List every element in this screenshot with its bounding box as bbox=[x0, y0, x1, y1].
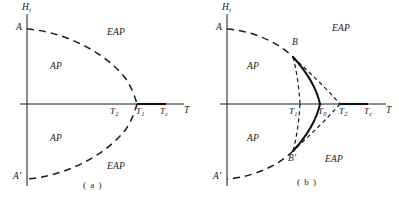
panel-a-region-eap-upper: EAP bbox=[107, 28, 125, 38]
panel-a-region-ap-upper: AP bbox=[50, 62, 62, 72]
panel-a: Hi A A' AP EAP AP EAP T2 T1 Tc T ( a ) bbox=[0, 0, 199, 204]
panel-b-first-order-curve-upper bbox=[293, 57, 320, 104]
panel-b-tick-Tc: Tc bbox=[364, 107, 372, 116]
panel-b-region-eap-lower: EAP bbox=[325, 155, 343, 165]
panel-b-region-ap-upper: AP bbox=[247, 62, 259, 72]
panel-a-region-ap-lower: AP bbox=[50, 134, 62, 144]
panel-a-label-A-prime: A' bbox=[13, 172, 21, 182]
panel-b-tick-T1: T1 bbox=[289, 107, 298, 116]
panel-b-x-axis-label: T bbox=[386, 106, 391, 116]
panel-a-upper-boundary bbox=[27, 29, 137, 104]
panel-a-tick-T2: T2 bbox=[110, 107, 119, 116]
panel-b-label-B: B bbox=[292, 38, 298, 48]
panel-b-label-B-prime: B' bbox=[288, 154, 296, 164]
panel-b-outer-upper-boundary bbox=[227, 29, 293, 57]
panel-b-plot bbox=[200, 0, 399, 204]
panel-a-region-eap-lower: EAP bbox=[107, 162, 125, 172]
panel-b: Hi A A' B B' AP EAP AP EAP T1 T0 T2 Tc T… bbox=[200, 0, 399, 204]
panel-b-outer-lower-boundary bbox=[227, 151, 293, 179]
panel-a-tick-Tc: Tc bbox=[160, 107, 168, 116]
panel-a-tick-T1: T1 bbox=[136, 107, 145, 116]
panel-a-caption: ( a ) bbox=[83, 180, 103, 190]
panel-b-region-ap-lower: AP bbox=[247, 134, 259, 144]
panel-b-caption: ( b ) bbox=[297, 177, 317, 187]
panel-b-region-eap-upper: EAP bbox=[332, 24, 350, 34]
panel-a-x-axis-label: T bbox=[184, 106, 189, 116]
panel-b-tick-T2: T2 bbox=[339, 107, 348, 116]
panel-b-label-A-prime: A' bbox=[213, 172, 221, 182]
panel-b-tick-T0: T0 bbox=[318, 107, 327, 116]
panel-b-label-A: A bbox=[216, 23, 222, 33]
panel-a-plot bbox=[0, 0, 199, 204]
panel-a-y-axis-label: Hi bbox=[22, 3, 31, 13]
phase-diagram-figure: Hi A A' AP EAP AP EAP T2 T1 Tc T ( a ) bbox=[0, 0, 399, 204]
panel-a-label-A: A bbox=[16, 23, 22, 33]
panel-b-y-axis-label: Hi bbox=[222, 3, 231, 13]
